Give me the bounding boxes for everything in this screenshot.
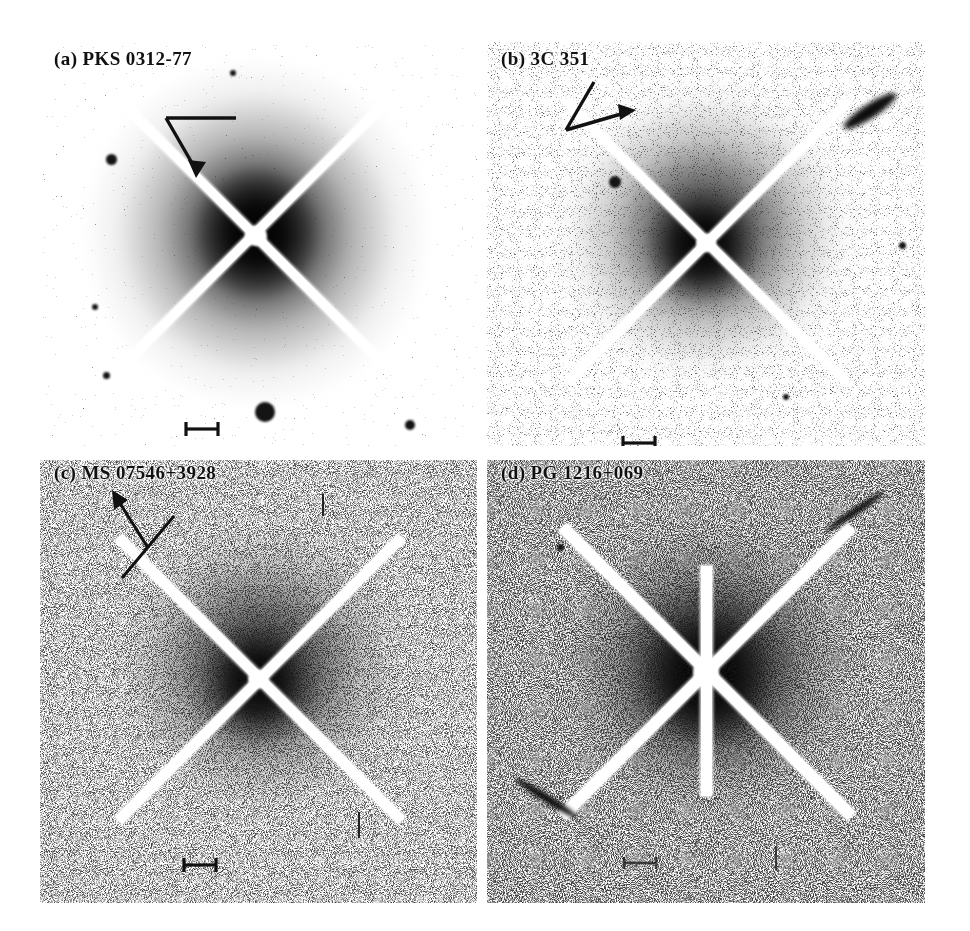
panel-c[interactable]: (c) MS 07546+3928	[40, 460, 477, 903]
panel-label-a: (a) PKS 0312-77	[54, 48, 192, 70]
field-star-a-5	[230, 70, 236, 76]
panel-label-b: (b) 3C 351	[501, 48, 589, 70]
tick-mark-c-2	[322, 494, 324, 516]
field-star-b-2	[899, 242, 906, 249]
scale-bar-b	[619, 432, 663, 446]
scale-bar-c	[180, 854, 224, 874]
compass-arrow-b	[542, 74, 652, 164]
panel-d[interactable]: (d) PG 1216+069	[487, 460, 925, 903]
tick-mark-d	[775, 846, 777, 870]
core-mask-b	[696, 234, 716, 252]
field-star-d-1	[557, 544, 564, 551]
compass-arrow-c	[102, 482, 222, 592]
field-star-a-4	[103, 372, 110, 379]
field-star-a-2	[255, 402, 275, 422]
panel-a[interactable]: (a) PKS 0312-77	[40, 42, 477, 446]
field-star-a-1	[106, 154, 117, 165]
field-star-a-6	[92, 304, 98, 310]
tick-mark-c	[358, 812, 360, 838]
scale-bar-d	[620, 852, 664, 872]
core-mask-a	[245, 226, 267, 246]
field-star-a-3	[405, 420, 415, 430]
field-star-b-1	[609, 176, 621, 188]
scale-bar-a	[182, 418, 226, 438]
field-star-b-3	[783, 394, 789, 400]
compass-arrow-a	[148, 92, 258, 192]
panel-b[interactable]: (b) 3C 351	[487, 42, 925, 446]
figure-panel-grid: (a) PKS 0312-77 (b) 3C 351	[0, 0, 970, 931]
core-mask-d	[693, 660, 719, 684]
core-mask-c	[248, 670, 268, 688]
panel-label-c: (c) MS 07546+3928	[54, 462, 216, 484]
panel-label-d: (d) PG 1216+069	[501, 462, 643, 484]
